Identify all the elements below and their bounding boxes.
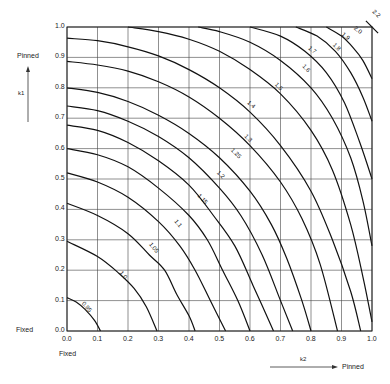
- y-axis-fixed-label: Fixed: [16, 326, 33, 333]
- contour-curve-1-9: [296, 27, 372, 121]
- y-axis-pinned-label: Pinned: [17, 52, 39, 59]
- y-axis-symbol-label: k1: [18, 90, 24, 96]
- curve-label: 1.1: [173, 218, 183, 229]
- x-tick-label: 0.9: [337, 335, 347, 342]
- y-tick-label: 0.2: [55, 265, 65, 272]
- contour-curve-1-7: [198, 27, 372, 246]
- curve-label: 1.7: [307, 45, 318, 55]
- x-tick-label: 0.1: [93, 335, 103, 342]
- y-tick-label: 0.5: [55, 174, 65, 181]
- y-tick-label: 0.6: [55, 144, 65, 151]
- curve-label: 1.9: [341, 31, 352, 41]
- y-tick-label: 0.8: [55, 83, 65, 90]
- y-tick-label: 0.3: [55, 235, 65, 242]
- contour-curve-1-2: [67, 125, 274, 331]
- y-tick-label: 0.9: [55, 52, 65, 59]
- curve-label: 1.0: [118, 270, 128, 281]
- x-tick-label: 0.6: [245, 335, 255, 342]
- x-tick-label: 0.4: [184, 335, 194, 342]
- curve-label: 2.2: [371, 8, 382, 19]
- curve-label: 1.4: [246, 100, 257, 110]
- y-tick-label: 0.4: [55, 204, 65, 211]
- curve-label: 1.25: [230, 147, 243, 160]
- contour-curve-1-5: [67, 38, 361, 331]
- y-tick-label: 1.0: [55, 22, 65, 29]
- x-axis-symbol-label: k2: [300, 356, 306, 362]
- x-tick-label: 0.0: [62, 335, 72, 342]
- y-tick-label: 0.1: [55, 296, 65, 303]
- curve-label: 1.15: [197, 193, 210, 206]
- x-axis-fixed-label: Fixed: [59, 350, 76, 357]
- curve-label: 1.8: [332, 42, 343, 53]
- contour-curve-1-0: [67, 241, 157, 331]
- k2-arrowhead-icon: [332, 365, 338, 369]
- x-tick-label: 0.5: [215, 335, 225, 342]
- x-tick-label: 0.2: [123, 335, 133, 342]
- curve-labels: 0.951.01.051.11.151.21.251.31.41.51.61.7…: [81, 8, 382, 313]
- x-tick-label: 0.8: [306, 335, 316, 342]
- y-tick-label: 0.0: [55, 326, 65, 333]
- curve-label: 1.3: [243, 133, 254, 144]
- curve-label: 1.2: [216, 169, 227, 180]
- x-tick-label: 0.7: [276, 335, 286, 342]
- y-tick-label: 0.7: [55, 113, 65, 120]
- k1-arrowhead-icon: [26, 66, 30, 72]
- curve-label: 1.6: [301, 63, 312, 74]
- curve-label: 1.5: [274, 81, 285, 92]
- x-tick-label: 1.0: [367, 335, 377, 342]
- x-axis-pinned-label: Pinned: [342, 363, 364, 370]
- x-tick-label: 0.3: [154, 335, 164, 342]
